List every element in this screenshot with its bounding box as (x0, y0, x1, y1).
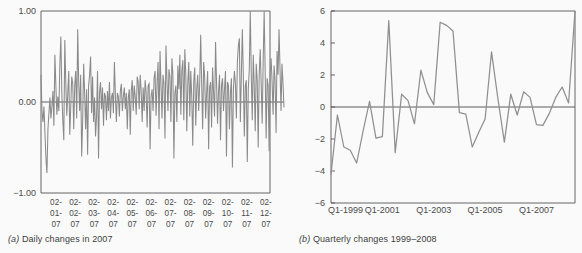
y-tick-label: 0.00 (18, 97, 36, 107)
x-tick-label: 07 (204, 220, 214, 229)
x-tick-label: 04- (107, 209, 119, 218)
y-tick-label: 4 (320, 38, 325, 48)
x-tick-label: 01- (50, 209, 62, 218)
x-tick-label: 07 (261, 220, 271, 229)
x-tick-label: 07 (128, 220, 138, 229)
x-tick-label: 02- (241, 198, 253, 207)
x-tick-label: 07 (242, 220, 252, 229)
y-tick-label: −2 (315, 134, 325, 144)
y-tick-label: 6 (320, 6, 325, 16)
caption-b: (b) Quarterly changes 1999–2008 (299, 234, 437, 244)
x-tick-label: 07 (147, 220, 157, 229)
quarterly-changes-chart: 6420−2−4−6Q1-1999Q1-2001Q1-2003Q1-2005Q1… (291, 0, 582, 232)
chart-panel-a: 1.000.00−1.0002-01-0702-02-0702-03-0702-… (0, 0, 291, 253)
x-tick-label: Q1-2007 (519, 205, 554, 215)
figure-container: 1.000.00−1.0002-01-0702-02-0702-03-0702-… (0, 0, 582, 253)
x-tick-label: 07- (165, 209, 177, 218)
y-tick-label: −6 (315, 198, 325, 208)
x-tick-label: 06- (146, 209, 158, 218)
chart-panel-b: 6420−2−4−6Q1-1999Q1-2001Q1-2003Q1-2005Q1… (291, 0, 582, 253)
x-tick-label: 02- (260, 198, 272, 207)
x-tick-label: 02- (203, 198, 215, 207)
x-tick-label: Q1-2005 (468, 205, 503, 215)
x-tick-label: 07 (90, 220, 100, 229)
x-tick-label: 07 (71, 220, 81, 229)
x-tick-label: 12- (260, 209, 272, 218)
caption-b-text: Quarterly changes 1999–2008 (310, 234, 436, 244)
x-tick-label: 02- (146, 198, 158, 207)
x-tick-label: 02- (50, 198, 62, 207)
x-tick-label: 07 (185, 220, 195, 229)
x-tick-label: 07 (166, 220, 176, 229)
y-tick-label: −4 (315, 166, 325, 176)
series-line (41, 11, 284, 173)
caption-b-label: (b) (299, 234, 310, 244)
x-tick-label: 02- (88, 198, 100, 207)
x-tick-label: 07 (109, 220, 119, 229)
x-tick-label: Q1-1999 (328, 205, 363, 215)
caption-a: (a) Daily changes in 2007 (8, 234, 113, 244)
y-tick-label: 0 (320, 102, 325, 112)
x-tick-label: 02- (69, 209, 81, 218)
x-tick-label: 09- (203, 209, 215, 218)
x-tick-label: 08- (184, 209, 196, 218)
caption-a-text: Daily changes in 2007 (19, 234, 112, 244)
x-tick-label: 07 (51, 220, 61, 229)
x-tick-label: Q1-2003 (416, 205, 451, 215)
x-tick-label: 03- (88, 209, 100, 218)
daily-changes-chart: 1.000.00−1.0002-01-0702-02-0702-03-0702-… (0, 0, 291, 232)
x-tick-label: 02- (107, 198, 119, 207)
x-tick-label: 07 (223, 220, 233, 229)
x-tick-label: 02- (184, 198, 196, 207)
x-tick-label: 11- (241, 209, 252, 218)
x-tick-label: 10- (222, 209, 234, 218)
y-tick-label: 1.00 (18, 6, 36, 16)
x-tick-label: 05- (126, 209, 138, 218)
y-tick-label: 2 (320, 70, 325, 80)
caption-a-label: (a) (8, 234, 19, 244)
x-tick-label: 02- (126, 198, 138, 207)
y-tick-label: −1.00 (13, 188, 36, 198)
x-tick-label: 02- (165, 198, 177, 207)
series-line (331, 11, 575, 174)
x-tick-label: Q1-2001 (365, 205, 400, 215)
x-tick-label: 02- (222, 198, 234, 207)
x-tick-label: 02- (69, 198, 81, 207)
